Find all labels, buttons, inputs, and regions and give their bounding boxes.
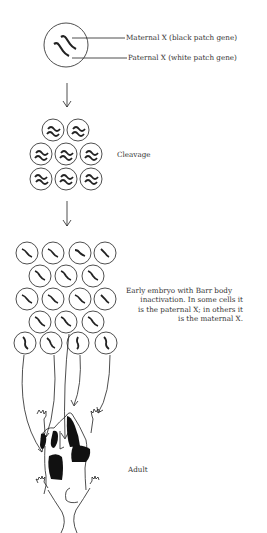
early-embryo-label-line: Early embryo with Barr body: [126, 286, 243, 295]
paternal-x-label: Paternal X (white patch gene): [128, 53, 237, 62]
early-embryo-label-line: is the paternal X; in others it: [126, 305, 243, 314]
black-patches: [40, 416, 90, 480]
embryo-cells: [14, 242, 117, 354]
zygote-cell: [44, 23, 127, 67]
arrow-icon: [63, 83, 71, 107]
cleavage-label: Cleavage: [117, 150, 151, 159]
maternal-x-label: Maternal X (black patch gene): [126, 33, 237, 42]
lineage-arrows: [22, 334, 110, 452]
cleavage-cells: [30, 119, 102, 190]
arrow-icon: [63, 201, 71, 226]
adult-label: Adult: [128, 465, 148, 474]
x-inactivation-diagram: [0, 0, 267, 533]
early-embryo-label-line: inactivation. In some cells it: [126, 295, 243, 304]
early-embryo-label-line: is the maternal X.: [126, 314, 243, 323]
early-embryo-label: Early embryo with Barr body inactivation…: [126, 286, 243, 324]
